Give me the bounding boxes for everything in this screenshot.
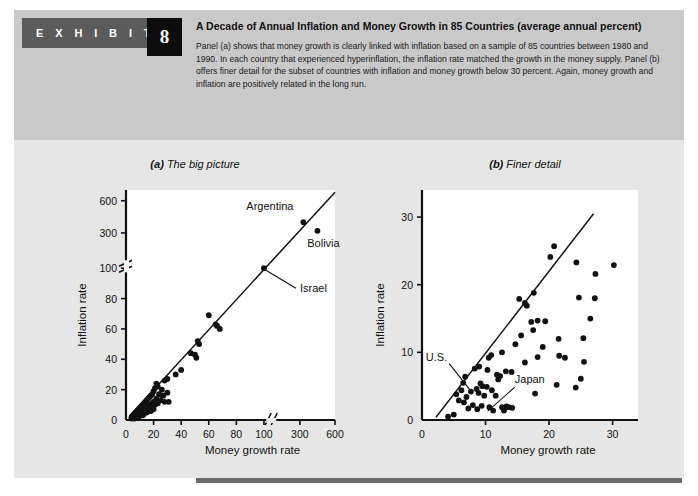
data-point xyxy=(462,374,468,380)
data-point xyxy=(518,333,524,339)
x-tick-label: 100 xyxy=(255,428,273,440)
y-tick-label: 20 xyxy=(401,279,413,291)
panel-b: (b) Finer detail 01020300102030U.S.Japan… xyxy=(360,150,690,470)
y-axis-break-gap xyxy=(124,260,129,272)
data-point xyxy=(476,390,482,396)
data-point xyxy=(315,228,321,234)
data-point xyxy=(578,376,584,382)
annotation-argentina: Argentina xyxy=(246,200,294,212)
data-point xyxy=(464,394,470,400)
panel-a-plot: 020406080100300600020406080100300600Arge… xyxy=(30,150,360,470)
data-point xyxy=(530,327,536,333)
data-point xyxy=(580,335,586,341)
annotation-us: U.S. xyxy=(426,351,447,363)
x-axis-title: Money growth rate xyxy=(500,444,595,456)
data-point xyxy=(593,271,599,277)
data-point xyxy=(547,254,553,260)
data-point xyxy=(592,295,598,301)
y-tick-label: 40 xyxy=(105,353,117,365)
panel-b-plot: 01020300102030U.S.JapanMoney growth rate… xyxy=(360,150,690,470)
data-point xyxy=(503,368,509,374)
bottom-rule xyxy=(196,478,682,483)
data-point xyxy=(512,341,518,347)
x-tick-label: 0 xyxy=(123,428,129,440)
y-tick-label: 600 xyxy=(99,195,117,207)
data-point xyxy=(461,400,467,406)
x-tick-label: 40 xyxy=(175,428,187,440)
data-point xyxy=(528,319,534,325)
data-point xyxy=(456,397,462,403)
x-tick-label: 80 xyxy=(231,428,243,440)
caption-block: A Decade of Annual Inflation and Money G… xyxy=(196,20,664,90)
x-tick-label: 600 xyxy=(326,428,344,440)
data-point xyxy=(562,355,568,361)
data-point xyxy=(486,355,492,361)
data-point xyxy=(474,406,480,412)
data-point xyxy=(540,344,546,350)
data-point xyxy=(531,290,537,296)
data-point xyxy=(573,385,579,391)
y-tick-label: 20 xyxy=(105,384,117,396)
data-point xyxy=(129,416,135,422)
data-point xyxy=(522,360,528,366)
data-point xyxy=(611,262,617,268)
data-point xyxy=(458,387,464,393)
data-point xyxy=(554,382,560,388)
x-tick-label: 0 xyxy=(419,428,425,440)
exhibit-number: 8 xyxy=(160,26,170,48)
y-tick-label: 60 xyxy=(105,323,117,335)
plot-background xyxy=(422,190,638,420)
y-tick-label: 100 xyxy=(99,262,117,274)
data-point xyxy=(587,316,593,322)
data-point xyxy=(196,341,202,347)
x-tick-label: 30 xyxy=(607,428,619,440)
data-point xyxy=(522,300,528,306)
data-point xyxy=(573,259,579,265)
y-tick-label: 0 xyxy=(111,414,117,426)
data-point xyxy=(576,295,582,301)
data-point xyxy=(535,318,541,324)
data-point xyxy=(532,391,538,397)
data-point xyxy=(509,405,515,411)
data-point xyxy=(542,318,548,324)
exhibit-label: E X H I B I T xyxy=(22,27,155,39)
x-tick-label: 300 xyxy=(291,428,309,440)
y-tick-label: 10 xyxy=(401,346,413,358)
data-point xyxy=(509,369,515,375)
data-point xyxy=(535,354,541,360)
data-point xyxy=(162,378,168,384)
x-tick-label: 20 xyxy=(543,428,555,440)
data-point xyxy=(556,353,562,359)
data-point xyxy=(472,366,478,372)
x-tick-label: 60 xyxy=(203,428,215,440)
y-tick-label: 0 xyxy=(407,414,413,426)
y-axis-title: Inflation rate xyxy=(76,283,88,346)
data-point xyxy=(489,387,495,393)
data-point xyxy=(453,391,459,397)
data-point xyxy=(300,219,306,225)
exhibit-page: E X H I B I T 8 A Decade of Annual Infla… xyxy=(0,0,698,496)
annotation-israel: Israel xyxy=(300,282,327,294)
caption-body: Panel (a) shows that money growth is cle… xyxy=(196,40,664,90)
data-point xyxy=(481,393,487,399)
data-point xyxy=(495,377,501,383)
data-point xyxy=(516,296,522,302)
data-point xyxy=(173,372,179,378)
data-point xyxy=(451,412,457,418)
data-point xyxy=(551,243,557,249)
panel-a: (a) The big picture 02040608010030060002… xyxy=(30,150,360,470)
data-point xyxy=(499,349,505,355)
data-point xyxy=(556,336,562,342)
data-point xyxy=(581,359,587,365)
y-tick-label: 30 xyxy=(401,211,413,223)
caption-title: A Decade of Annual Inflation and Money G… xyxy=(196,20,664,33)
x-axis-break-gap xyxy=(266,418,276,423)
data-point xyxy=(178,367,184,373)
data-point xyxy=(485,367,491,373)
data-point xyxy=(162,399,168,405)
annotation-bolivia: Bolivia xyxy=(307,237,340,249)
x-axis-title: Money growth rate xyxy=(205,444,300,456)
y-axis-title: Inflation rate xyxy=(374,283,386,346)
data-point xyxy=(193,355,199,361)
y-tick-label: 300 xyxy=(99,227,117,239)
